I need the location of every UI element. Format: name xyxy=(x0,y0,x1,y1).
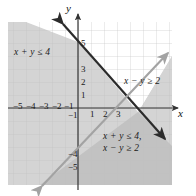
plot-svg xyxy=(0,0,196,196)
x-tick--2: −2 xyxy=(52,101,62,111)
inequality-graph: y x −5 −4 −3 −2 −1 1 2 3 5 3 2 1 −1 −4 −… xyxy=(0,0,196,196)
x-tick--3: −3 xyxy=(39,101,49,111)
y-axis-label: y xyxy=(66,2,71,14)
x-axis-label: x xyxy=(178,107,183,119)
annotation-left-region: x + y ≤ 4 xyxy=(14,47,50,57)
annotation-overlap-line2: x − y ≥ 2 xyxy=(103,143,139,154)
y-tick--4: −4 xyxy=(68,149,78,159)
x-tick-3: 3 xyxy=(116,109,121,119)
y-tick-2: 2 xyxy=(81,77,86,87)
y-tick-1: 1 xyxy=(81,90,86,100)
y-tick--5: −5 xyxy=(68,162,78,172)
x-tick-1: 1 xyxy=(90,109,95,119)
x-tick-2: 2 xyxy=(103,109,108,119)
y-tick--1: −1 xyxy=(68,110,78,120)
annotation-right-region: x − y ≥ 2 xyxy=(124,76,160,86)
x-tick--4: −4 xyxy=(26,101,36,111)
x-tick--5: −5 xyxy=(13,101,23,111)
y-tick-5: 5 xyxy=(81,38,86,48)
y-tick-3: 3 xyxy=(81,64,86,74)
annotation-overlap-line1: x + y ≤ 4, xyxy=(103,131,142,142)
